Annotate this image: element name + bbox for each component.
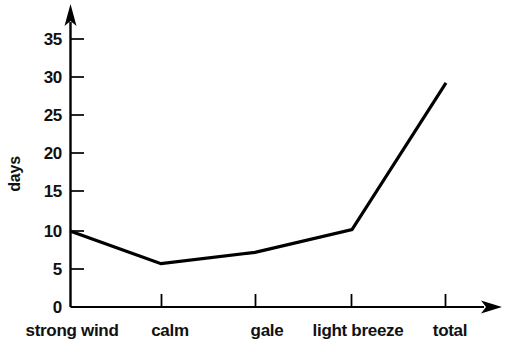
x-axis-arrow-icon [481, 301, 502, 314]
y-tick-label-15: 15 [20, 183, 62, 200]
x-axis-ticks [162, 294, 446, 307]
y-tick-label-30: 30 [20, 69, 62, 86]
y-tick-label-35: 35 [20, 31, 62, 48]
x-tick-label-total: total [433, 322, 467, 339]
y-tick-label-10: 10 [20, 223, 62, 240]
y-tick-label-25: 25 [20, 107, 62, 124]
y-tick-label-20: 20 [20, 145, 62, 162]
y-tick-label-0: 0 [20, 299, 62, 316]
x-tick-label-gale: gale [251, 322, 284, 339]
x-tick-label-light-breeze: light breeze [313, 322, 404, 339]
line-chart: days 35 30 25 20 15 10 5 0 strong wind c… [0, 0, 520, 356]
chart-plot-area [0, 0, 520, 356]
data-series-line [70, 83, 446, 264]
x-tick-label-calm: calm [151, 322, 189, 339]
x-tick-label-strong-wind: strong wind [25, 322, 118, 339]
y-tick-label-5: 5 [20, 261, 62, 278]
